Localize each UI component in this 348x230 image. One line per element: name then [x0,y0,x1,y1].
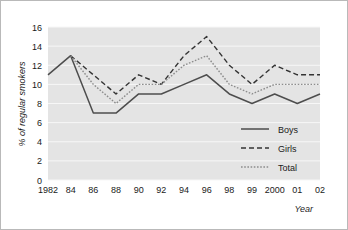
x-tick-label: 88 [111,185,121,195]
x-tick-label: 94 [179,185,189,195]
x-tick-label: 84 [66,185,76,195]
y-tick-label: 12 [32,61,42,71]
x-tick-label: 1982 [38,185,58,195]
smoking-prevalence-line-chart: 0246810121416 19828486889092949698992000… [1,1,348,230]
x-tick-label: 02 [315,185,325,195]
y-tick-label: 14 [32,42,42,52]
y-tick-label: 4 [37,137,42,147]
legend-label-girls: Girls [278,144,297,154]
x-tick-label: 90 [134,185,144,195]
x-tick-label: 98 [224,185,234,195]
x-axis-tick-labels: 198284868890929496989920000102 [38,185,325,195]
y-tick-label: 16 [32,23,42,33]
x-tick-label: 99 [247,185,257,195]
y-tick-label: 10 [32,80,42,90]
legend-label-boys: Boys [278,125,299,135]
x-tick-label: 96 [202,185,212,195]
x-axis-title: Year [294,204,314,214]
y-axis-title: % of regular smokers [17,61,27,147]
x-tick-label: 2000 [265,185,285,195]
y-axis-tick-labels: 0246810121416 [32,23,42,186]
y-tick-label: 6 [37,118,42,128]
x-tick-label: 86 [88,185,98,195]
y-tick-label: 2 [37,156,42,166]
legend-label-total: Total [278,163,297,173]
y-tick-label: 8 [37,99,42,109]
x-tick-label: 01 [292,185,302,195]
y-tick-label: 0 [37,176,42,186]
chart-figure: 0246810121416 19828486889092949698992000… [0,0,348,230]
x-tick-label: 92 [156,185,166,195]
